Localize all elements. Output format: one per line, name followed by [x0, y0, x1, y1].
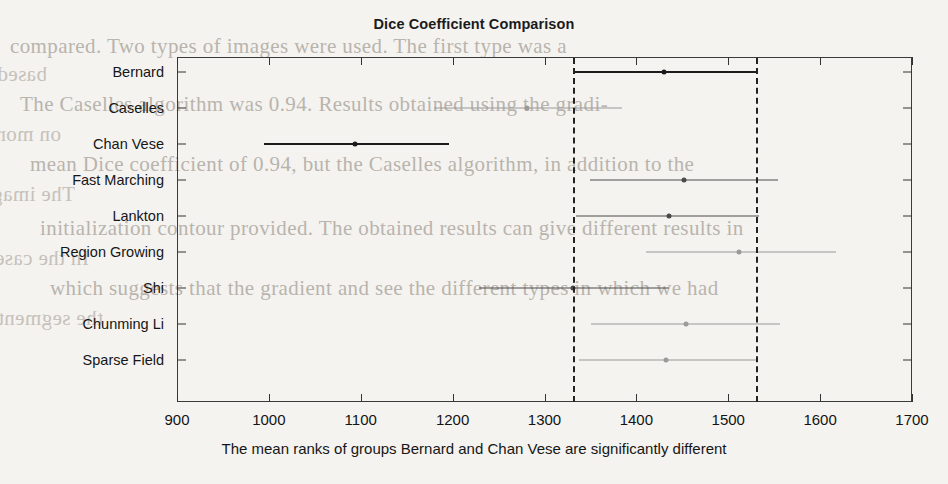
x-axis-tick-mark: [912, 394, 913, 402]
x-axis-tick-mark-top: [728, 57, 729, 65]
x-axis-tick-mark: [361, 394, 362, 402]
y-axis-tick-mark-right: [903, 324, 912, 325]
x-axis-tick-label: 1100: [345, 411, 377, 428]
x-axis-tick-mark-top: [636, 57, 637, 65]
x-axis-tick-mark: [820, 394, 821, 402]
y-axis-tick-mark-right: [903, 360, 912, 361]
y-axis-tick-mark-right: [903, 252, 912, 253]
y-axis-tick-mark-right: [903, 216, 912, 217]
y-axis-tick-mark: [177, 324, 186, 325]
interval-center-marker: [663, 358, 668, 363]
y-axis-tick-label: Lankton: [112, 208, 164, 224]
y-axis-tick-label: Fast Marching: [72, 172, 164, 188]
y-axis-tick-label: Region Growing: [60, 244, 164, 260]
x-axis-tick-mark-top: [453, 57, 454, 65]
x-axis-tick-mark-top: [912, 57, 913, 65]
reference-dashed-line: [756, 58, 758, 402]
x-axis-tick-mark: [453, 394, 454, 402]
x-axis-tick-mark: [728, 394, 729, 402]
y-axis-tick-label: Sparse Field: [83, 352, 164, 368]
y-axis-tick-mark: [177, 360, 186, 361]
y-axis-tick-mark: [177, 252, 186, 253]
y-axis-tick-label: Shi: [143, 280, 164, 296]
y-axis-tick-label: Bernard: [112, 64, 164, 80]
y-axis-tick-label: Chunming Li: [83, 316, 164, 332]
y-axis-tick-mark: [177, 288, 186, 289]
x-axis-tick-label: 1000: [252, 411, 285, 428]
y-axis-tick-mark: [177, 108, 186, 109]
y-axis-tick-mark-right: [903, 144, 912, 145]
x-axis-tick-mark-top: [820, 57, 821, 65]
x-axis-tick-label: 1600: [803, 411, 836, 428]
interval-center-marker: [682, 178, 687, 183]
x-axis-tick-label: 1700: [895, 411, 928, 428]
x-axis-tick-label: 1400: [620, 411, 653, 428]
interval-center-marker: [683, 322, 688, 327]
y-axis-tick-label: Chan Vese: [93, 136, 164, 152]
x-axis-tick-label: 1200: [436, 411, 469, 428]
x-axis-tick-mark-top: [177, 57, 178, 65]
y-axis-tick-label: Caselles: [108, 100, 164, 116]
interval-center-marker: [525, 106, 530, 111]
scanned-page: compared. Two types of images were used.…: [0, 0, 948, 484]
x-axis-tick-mark-top: [361, 57, 362, 65]
x-axis-tick-mark: [269, 394, 270, 402]
x-axis-caption: The mean ranks of groups Bernard and Cha…: [0, 440, 948, 457]
y-axis-tick-mark: [177, 72, 186, 73]
y-axis-tick-mark-right: [903, 72, 912, 73]
interval-center-marker: [737, 250, 742, 255]
chart-title: Dice Coefficient Comparison: [0, 16, 948, 32]
x-axis-tick-label: 900: [164, 411, 189, 428]
y-axis-tick-mark-right: [903, 288, 912, 289]
x-axis-tick-mark: [177, 394, 178, 402]
reference-dashed-line: [573, 58, 575, 402]
x-axis-tick-mark-top: [269, 57, 270, 65]
x-axis-tick-mark: [545, 394, 546, 402]
interval-center-marker: [661, 70, 666, 75]
y-axis-tick-mark: [177, 216, 186, 217]
x-axis-tick-label: 1300: [528, 411, 561, 428]
y-axis-tick-mark: [177, 144, 186, 145]
x-axis-tick-mark-top: [545, 57, 546, 65]
x-axis-tick-mark: [636, 394, 637, 402]
interval-center-marker: [667, 214, 672, 219]
y-axis-tick-mark-right: [903, 108, 912, 109]
y-axis-tick-mark-right: [903, 180, 912, 181]
interval-center-marker: [353, 142, 358, 147]
multiple-comparison-chart: Dice Coefficient Comparison BernardCasel…: [0, 0, 948, 484]
y-axis-tick-mark: [177, 180, 186, 181]
x-axis-tick-label: 1500: [712, 411, 745, 428]
plot-area: [177, 57, 912, 402]
